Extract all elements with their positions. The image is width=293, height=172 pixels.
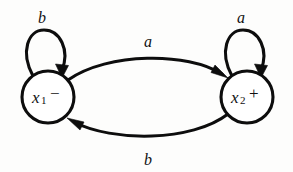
transition-label-x1-to-x2: a xyxy=(144,33,152,50)
state-node-x2-subscript: 2 xyxy=(240,94,246,106)
transition-x1-to-x2 xyxy=(68,58,228,80)
transition-x2-to-x1-arrowhead xyxy=(67,118,84,130)
state-node-x1-subscript: 1 xyxy=(41,94,47,106)
state-node-x2-marker: + xyxy=(249,84,259,103)
state-node-x1[interactable]: x 1 − xyxy=(22,71,74,123)
transition-x2-to-x1 xyxy=(67,114,228,136)
state-node-x2-circle[interactable] xyxy=(221,71,273,123)
transition-x2-to-x1-path xyxy=(74,114,228,136)
state-node-x2[interactable]: x 2 + xyxy=(221,71,273,123)
transition-label-x2-to-x1: b xyxy=(144,151,152,168)
transition-x1-to-x2-arrowhead xyxy=(211,65,228,78)
self-loop-label-x2: a xyxy=(237,9,245,26)
diagram-canvas: x 1 − x 2 + a b b a xyxy=(0,0,293,172)
state-node-x2-label: x xyxy=(230,88,239,107)
self-loop-label-x1: b xyxy=(38,9,46,26)
state-node-x1-label: x xyxy=(31,88,40,107)
state-node-x1-marker: − xyxy=(50,84,60,103)
transition-x1-to-x2-path xyxy=(68,58,222,80)
state-node-x1-circle[interactable] xyxy=(22,71,74,123)
state-transition-diagram: x 1 − x 2 + a b b a xyxy=(0,0,293,172)
